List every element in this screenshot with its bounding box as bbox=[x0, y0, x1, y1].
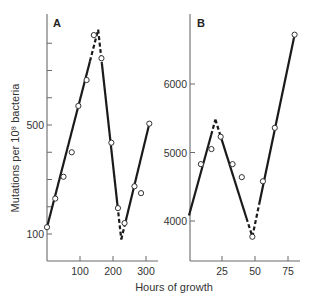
data-point bbox=[122, 221, 127, 226]
data-point bbox=[272, 125, 277, 130]
data-point bbox=[209, 146, 214, 151]
data-point bbox=[115, 206, 120, 211]
fit-line-segment bbox=[47, 61, 90, 227]
x-tick-label: 50 bbox=[249, 265, 261, 277]
mutation-rate-chart: 100500100200300 A 400050006000255075 B M… bbox=[0, 0, 312, 302]
panel-a: 100500100200300 A bbox=[26, 14, 158, 277]
data-point bbox=[218, 134, 223, 139]
y-tick-label: 100 bbox=[26, 228, 44, 240]
data-point bbox=[44, 225, 49, 230]
y-tick-label: 6000 bbox=[164, 78, 188, 90]
fit-line-segment bbox=[189, 135, 211, 216]
y-tick-label: 5000 bbox=[164, 147, 188, 159]
data-point bbox=[61, 174, 66, 179]
panel-b-data-points bbox=[198, 32, 297, 239]
panel-b-fit-line bbox=[189, 35, 295, 237]
data-point bbox=[147, 121, 152, 126]
data-point bbox=[91, 32, 96, 37]
data-point bbox=[198, 162, 203, 167]
y-axis-title: Mutations per 10⁸ bacteria bbox=[9, 83, 21, 213]
data-point bbox=[239, 175, 244, 180]
data-point bbox=[99, 56, 104, 61]
data-point bbox=[76, 103, 81, 108]
x-tick-label: 75 bbox=[282, 265, 294, 277]
x-tick-label: 100 bbox=[71, 265, 89, 277]
y-tick-label: 4000 bbox=[164, 215, 188, 227]
fit-line-segment bbox=[102, 63, 118, 206]
data-point bbox=[230, 162, 235, 167]
x-axis-title: Hours of growth bbox=[135, 281, 213, 293]
panel-b-axes: 400050006000255075 bbox=[164, 14, 300, 277]
data-point bbox=[250, 234, 255, 239]
fit-line-dashed bbox=[211, 120, 215, 135]
data-point bbox=[53, 196, 58, 201]
x-tick-label: 300 bbox=[137, 265, 155, 277]
x-tick-label: 25 bbox=[216, 265, 228, 277]
data-point bbox=[109, 140, 114, 145]
data-point bbox=[138, 191, 143, 196]
panel-b: 400050006000255075 B bbox=[164, 14, 300, 277]
panel-a-label: A bbox=[53, 17, 61, 29]
panel-b-label: B bbox=[197, 17, 205, 29]
y-tick-label: 500 bbox=[26, 119, 44, 131]
data-point bbox=[132, 184, 137, 189]
panel-a-data-points bbox=[44, 32, 151, 229]
data-point bbox=[69, 150, 74, 155]
fit-line-dashed bbox=[252, 204, 259, 236]
fit-line-segment bbox=[126, 124, 150, 221]
data-point bbox=[84, 77, 89, 82]
x-tick-label: 200 bbox=[104, 265, 122, 277]
panel-a-fit-line bbox=[47, 30, 149, 240]
data-point bbox=[260, 179, 265, 184]
data-point bbox=[292, 32, 297, 37]
